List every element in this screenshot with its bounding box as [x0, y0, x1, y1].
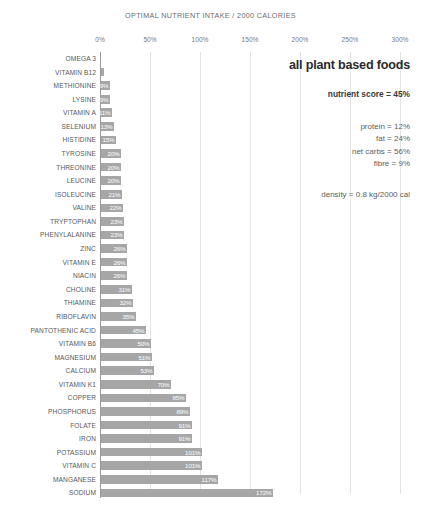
chart-row: CHOLINE31% — [0, 283, 421, 297]
category-label: VALINE — [0, 201, 96, 215]
category-label: VITAMIN C — [0, 459, 96, 473]
chart-row: VITAMIN E26% — [0, 256, 421, 270]
category-label: THIAMINE — [0, 296, 96, 310]
bar-value-label: 23% — [110, 217, 124, 226]
bar-value-label: 26% — [113, 258, 127, 267]
x-tick-label: 50% — [143, 36, 156, 43]
bar-value-label: 32% — [119, 298, 133, 307]
category-label: LYSINE — [0, 93, 96, 107]
category-label: RIBOFLAVIN — [0, 310, 96, 324]
category-label: NIACIN — [0, 269, 96, 283]
category-label: MANGANESE — [0, 473, 96, 487]
bar-value-label: 45% — [132, 326, 146, 335]
chart-row: CALCIUM53% — [0, 364, 421, 378]
category-label: CALCIUM — [0, 364, 96, 378]
x-tick-label: 150% — [242, 36, 259, 43]
category-label: POTASSIUM — [0, 446, 96, 460]
info-headline: all plant based foods — [215, 58, 410, 72]
chart-row: THIAMINE32% — [0, 296, 421, 310]
bar-value-label: 53% — [140, 366, 154, 375]
bar-value-label: 26% — [113, 244, 127, 253]
chart-row: FOLATE91% — [0, 419, 421, 433]
category-label: PANTOTHENIC ACID — [0, 324, 96, 338]
bar-value-label: 22% — [109, 203, 123, 212]
bar-value-label: 20% — [107, 163, 121, 172]
bar-value-label: 21% — [108, 190, 122, 199]
bar-value-label: 50% — [137, 339, 151, 348]
category-label: VITAMIN B6 — [0, 337, 96, 351]
category-label: OMEGA 3 — [0, 52, 96, 66]
bar-value-label: 70% — [157, 380, 171, 389]
bar-value-label: 89% — [176, 407, 190, 416]
macro-line: fat = 24% — [215, 133, 410, 145]
bar-value-label: 13% — [100, 122, 114, 131]
bar-value-label: 20% — [107, 149, 121, 158]
category-label: CHOLINE — [0, 283, 96, 297]
chart-row: POTASSIUM101% — [0, 446, 421, 460]
chart-row: IRON91% — [0, 432, 421, 446]
bar-value-label: 85% — [172, 393, 186, 402]
category-label: SELENIUM — [0, 120, 96, 134]
category-label: SODIUM — [0, 486, 96, 500]
bar-value-label: 101% — [185, 461, 202, 470]
bar-value-label: 26% — [113, 271, 127, 280]
bar — [101, 68, 104, 77]
macro-line: fibre = 9% — [215, 158, 410, 170]
category-label: TRYPTOPHAN — [0, 215, 96, 229]
chart-row: VITAMIN B650% — [0, 337, 421, 351]
category-label: VITAMIN K1 — [0, 378, 96, 392]
density-value: density = 0.8 kg/2000 cal — [215, 190, 410, 199]
bar-value-label: 117% — [202, 475, 218, 484]
category-label: VITAMIN A — [0, 106, 96, 120]
bar — [101, 475, 218, 484]
chart-row: COPPER85% — [0, 391, 421, 405]
bar-value-label: 91% — [178, 434, 192, 443]
category-label: COPPER — [0, 391, 96, 405]
chart-title: OPTIMAL NUTRIENT INTAKE / 2000 CALORIES — [0, 11, 421, 20]
category-label: PHENYLALANINE — [0, 228, 96, 242]
chart-row: PANTOTHENIC ACID45% — [0, 324, 421, 338]
category-label: METHIONINE — [0, 79, 96, 93]
category-label: ISOLEUCINE — [0, 188, 96, 202]
bar-value-label: 51% — [138, 353, 152, 362]
bar-value-label: 15% — [102, 135, 116, 144]
category-label: LEUCINE — [0, 174, 96, 188]
chart-row: VALINE22% — [0, 201, 421, 215]
x-tick-label: 250% — [342, 36, 359, 43]
chart-row: MANGANESE117% — [0, 473, 421, 487]
category-label: MAGNESIUM — [0, 351, 96, 365]
info-panel: all plant based foods nutrient score = 4… — [215, 58, 410, 199]
category-label: FOLATE — [0, 419, 96, 433]
category-label: TYROSINE — [0, 147, 96, 161]
chart-row: TRYPTOPHAN23% — [0, 215, 421, 229]
category-label: VITAMIN B12 — [0, 66, 96, 80]
chart-row: NIACIN26% — [0, 269, 421, 283]
category-label: ZINC — [0, 242, 96, 256]
x-tick-label: 200% — [292, 36, 309, 43]
bar-value-label: 172% — [256, 488, 273, 497]
bar-value-label: 23% — [110, 230, 124, 239]
bar-value-label: 20% — [107, 176, 121, 185]
chart-row: MAGNESIUM51% — [0, 351, 421, 365]
bar-value-label: 11% — [99, 108, 112, 117]
chart-row: ZINC26% — [0, 242, 421, 256]
x-axis-ticks: 0%50%100%150%200%250%300% — [0, 36, 421, 46]
bar-value-label: 91% — [178, 421, 192, 430]
x-tick-label: 100% — [192, 36, 209, 43]
x-tick-label: 300% — [392, 36, 409, 43]
category-label: HISTIDINE — [0, 133, 96, 147]
macro-line: protein = 12% — [215, 121, 410, 133]
chart-row: RIBOFLAVIN35% — [0, 310, 421, 324]
category-label: PHOSPHORUS — [0, 405, 96, 419]
nutrient-score: nutrient score = 45% — [215, 89, 410, 99]
chart-row: PHENYLALANINE23% — [0, 228, 421, 242]
bar-value-label: 35% — [122, 312, 136, 321]
macro-line: net carbs = 56% — [215, 146, 410, 158]
chart-row: VITAMIN C101% — [0, 459, 421, 473]
bar-value-label: 31% — [118, 285, 132, 294]
x-tick-label: 0% — [95, 36, 105, 43]
bar — [101, 489, 273, 498]
category-label: VITAMIN E — [0, 256, 96, 270]
bar-value-label: 9% — [100, 95, 110, 104]
chart-row: VITAMIN K170% — [0, 378, 421, 392]
